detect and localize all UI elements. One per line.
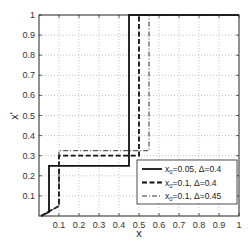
x-tick-label: 1 bbox=[236, 220, 241, 230]
x-tick-label: 0.9 bbox=[213, 220, 226, 230]
legend: x0=0.05, Δ=0.4x0=0.1, Δ=0.4x0=0.1, Δ=0.4… bbox=[137, 160, 237, 204]
legend-label-3: x0=0.1, Δ=0.45 bbox=[165, 191, 222, 202]
x-tick-label: 0.7 bbox=[173, 220, 186, 230]
x-axis-label: x bbox=[136, 227, 142, 239]
legend-label-2: x0=0.1, Δ=0.4 bbox=[165, 178, 217, 189]
y-tick-label: 0.8 bbox=[22, 50, 35, 60]
y-tick-label: 0.3 bbox=[22, 151, 35, 161]
y-tick-label: 0.2 bbox=[22, 171, 35, 181]
x-tick-label: 0.6 bbox=[153, 220, 166, 230]
y-axis-label: x' bbox=[8, 112, 20, 120]
y-tick-label: 1 bbox=[30, 10, 35, 20]
y-tick-label: 0.4 bbox=[22, 131, 35, 141]
y-tick-label: 0.6 bbox=[22, 90, 35, 100]
x-tick-label: 0.8 bbox=[193, 220, 206, 230]
y-tick-label: 0.9 bbox=[22, 30, 35, 40]
x-tick-label: 0.1 bbox=[53, 220, 66, 230]
y-tick-label: 0.1 bbox=[22, 191, 35, 201]
step-function-chart: 0.10.20.30.40.50.60.70.80.910.10.20.30.4… bbox=[0, 0, 252, 246]
legend-label-1: x0=0.05, Δ=0.4 bbox=[165, 164, 222, 175]
x-tick-label: 0.3 bbox=[93, 220, 106, 230]
y-tick-label: 0.5 bbox=[22, 111, 35, 121]
y-tick-label: 0.7 bbox=[22, 70, 35, 80]
x-tick-label: 0.4 bbox=[113, 220, 126, 230]
x-tick-label: 0.2 bbox=[73, 220, 86, 230]
